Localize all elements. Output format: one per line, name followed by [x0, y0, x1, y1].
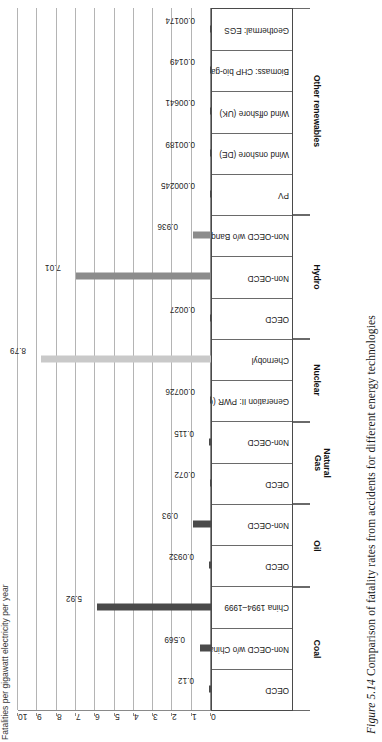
category-cell: Non-OECD	[212, 504, 292, 545]
group-bracket-line	[293, 503, 310, 504]
y-tick-label: 4	[134, 712, 139, 722]
y-tick-label: 10	[18, 712, 28, 722]
category-cell: Non-OECD	[212, 421, 292, 462]
category-label: Non-OECD w/o China	[212, 645, 289, 654]
bar-slot: 0.569	[18, 627, 211, 668]
y-tick-mark	[56, 713, 57, 716]
y-tick-mark	[210, 713, 211, 716]
bar-slot: 0.0149	[18, 49, 211, 90]
bar-slot: 0.0027	[18, 297, 211, 338]
rotated-figure-stage: Fatalities per gigawatt electricity per …	[0, 0, 382, 742]
group-bracket-line	[293, 214, 310, 215]
category-label: Generation II: PWR (CH)	[212, 397, 289, 406]
category-cell: Chernobyl	[212, 339, 292, 380]
category-cell: Non-OECD w/o Banqiao/Shimantan	[212, 215, 292, 256]
bar-value-label: 5.92	[66, 594, 82, 603]
category-cell: Biomass: CHP bio-gas	[212, 50, 292, 91]
category-label: Chernobyl	[252, 356, 289, 365]
bar[interactable]	[76, 273, 211, 280]
bar-value-label: 0.00174	[166, 16, 196, 25]
y-axis-title: Fatalities per gigawatt electricity per …	[0, 388, 14, 740]
figure-number: Figure 5.14	[365, 679, 377, 734]
group-bracket-line	[293, 504, 310, 505]
group-cell: Hydro	[293, 215, 329, 339]
group-bracket-line	[293, 339, 310, 340]
category-label: Non-OECD	[248, 274, 289, 283]
category-label: OECD	[265, 686, 289, 695]
y-tick-label: 8	[57, 712, 62, 722]
category-label: OECD	[265, 562, 289, 571]
category-cell: Non-OECD	[212, 256, 292, 297]
category-label: Non-OECD	[248, 439, 289, 448]
bar-value-label: 0.0149	[170, 57, 195, 66]
group-label: Coal	[312, 640, 321, 659]
bar[interactable]	[193, 232, 211, 239]
y-tick-label: 1	[192, 712, 197, 722]
bar-slot: 8.79	[18, 338, 211, 379]
bar-slot: 0.12	[18, 669, 211, 710]
bar-slot: 0.0932	[18, 545, 211, 586]
group-label: Oil	[312, 540, 321, 551]
category-cell: OECD	[212, 669, 292, 710]
y-axis-tick-labels: 012345678910	[18, 713, 211, 742]
bar[interactable]	[200, 645, 211, 652]
group-cell: Other renewables	[293, 8, 329, 215]
category-label: Non-OECD w/o Banqiao/Shimantan	[212, 233, 289, 242]
bar[interactable]	[41, 356, 211, 363]
category-label: Non-OECD	[248, 521, 289, 530]
group-label: Natural Gas	[312, 440, 331, 486]
figure-bar-chart: Fatalities per gigawatt electricity per …	[0, 0, 352, 742]
category-cell: OECD	[212, 298, 292, 339]
category-cell: OECD	[212, 545, 292, 586]
category-cell: Geothermal: EGS	[212, 9, 292, 50]
bar-slot: 0.00174	[18, 8, 211, 49]
category-cell: Wind offshore (UK)	[212, 91, 292, 132]
y-tick-label: 3	[153, 712, 158, 722]
book-page: Fatalities per gigawatt electricity per …	[0, 0, 382, 742]
group-bracket-line	[293, 8, 310, 9]
category-label: Geothermal: EGS	[224, 26, 289, 35]
group-bracket-line	[293, 587, 310, 588]
bar-value-label: 0.569	[165, 635, 186, 644]
y-tick-label: 9	[37, 712, 42, 722]
y-tick-label: 5	[115, 712, 120, 722]
bar-value-label: 0.00726	[166, 388, 196, 397]
plot-area: 0.120.5695.920.09320.930.0720.1150.00726…	[18, 8, 211, 711]
y-tick-label: 2	[172, 712, 177, 722]
category-cell: Wind onshore (DE)	[212, 133, 292, 174]
category-label: Wind offshore (UK)	[220, 109, 289, 118]
bar-value-label: 0.00189	[166, 140, 196, 149]
figure-caption: Figure 5.14 Comparison of fatality rates…	[364, 8, 378, 734]
y-tick-mark	[152, 713, 153, 716]
group-bracket-line	[293, 710, 310, 711]
category-label: China 1994–1999	[224, 604, 289, 613]
group-label-band: CoalOilNatural GasNuclearHydroOther rene…	[293, 8, 329, 711]
category-label-band: OECDNon-OECD w/o ChinaChina 1994–1999OEC…	[211, 8, 293, 711]
y-tick-mark	[94, 713, 95, 716]
group-bracket-line	[293, 586, 310, 587]
category-label: OECD	[265, 315, 289, 324]
group-bracket-line	[293, 338, 310, 339]
category-label: Biomass: CHP bio-gas	[212, 68, 289, 77]
figure-caption-text: Comparison of fatality rates from accide…	[365, 315, 377, 676]
category-cell: OECD	[212, 463, 292, 504]
bar-value-label: 0.115	[174, 429, 194, 438]
y-tick-label: 7	[76, 712, 81, 722]
bar[interactable]	[193, 521, 211, 528]
group-label: Other renewables	[312, 75, 321, 147]
bar-value-label: 0.0027	[170, 305, 195, 314]
y-tick-label: 0	[211, 712, 216, 722]
bar-value-label: 0.93	[162, 512, 178, 521]
bar-value-label: 0.936	[157, 223, 178, 232]
bar[interactable]	[97, 603, 211, 610]
y-tick-mark	[17, 713, 18, 716]
group-cell: Coal	[293, 587, 329, 711]
group-cell: Natural Gas	[293, 422, 329, 505]
y-tick-mark	[36, 713, 37, 716]
bar-slot: 5.92	[18, 586, 211, 627]
y-tick-label: 6	[95, 712, 100, 722]
category-label: Wind onshore (DE)	[219, 150, 289, 159]
bar-slot: 7.01	[18, 256, 211, 297]
bar-slot: 0.115	[18, 421, 211, 462]
y-tick-mark	[133, 713, 134, 716]
